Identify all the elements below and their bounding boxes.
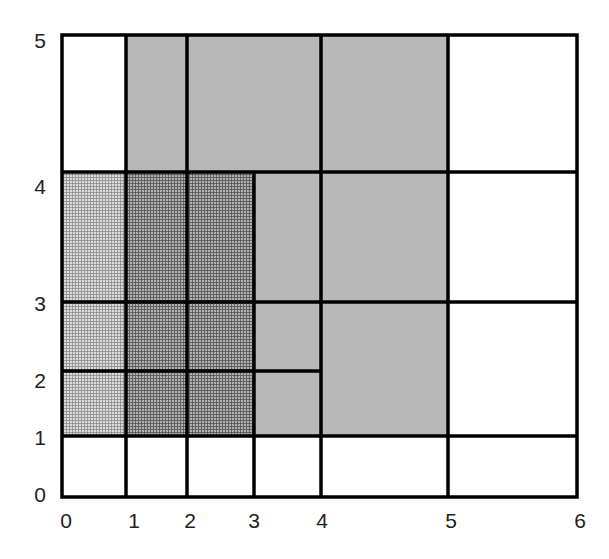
x-tick-2: 2 bbox=[184, 510, 196, 531]
x-tick-5: 5 bbox=[445, 510, 457, 531]
y-tick-4: 4 bbox=[26, 176, 46, 197]
region-mid-gray bbox=[254, 172, 448, 436]
x-tick-4: 4 bbox=[316, 510, 328, 531]
x-tick-1: 1 bbox=[128, 510, 140, 531]
y-tick-0: 0 bbox=[26, 484, 46, 505]
region-top-gray bbox=[126, 35, 448, 172]
x-tick-6: 6 bbox=[574, 510, 586, 531]
y-tick-5: 5 bbox=[26, 30, 46, 51]
y-tick-2: 2 bbox=[26, 370, 46, 391]
grid-diagram: 0 1 2 3 4 5 6 0 1 2 3 4 5 bbox=[0, 0, 609, 559]
x-tick-0: 0 bbox=[60, 510, 72, 531]
y-tick-3: 3 bbox=[26, 293, 46, 314]
region-hatch-mid bbox=[187, 172, 254, 436]
x-tick-3: 3 bbox=[248, 510, 260, 531]
grid-svg bbox=[0, 0, 609, 559]
region-hatch-light bbox=[62, 172, 126, 436]
y-tick-1: 1 bbox=[26, 427, 46, 448]
